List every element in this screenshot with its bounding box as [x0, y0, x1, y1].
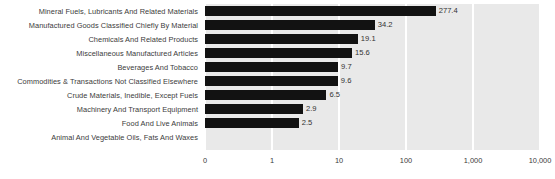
bar[interactable] — [205, 76, 338, 86]
bar-value-label: 34.2 — [378, 19, 393, 31]
bar[interactable] — [205, 20, 375, 30]
gridline — [472, 4, 474, 150]
x-tick-label: 100 — [400, 156, 412, 165]
bar-value-label: 277.4 — [439, 5, 458, 17]
bar-value-label: 2.9 — [306, 103, 317, 115]
bar[interactable] — [205, 104, 303, 114]
bar-value-label: 9.6 — [341, 75, 352, 87]
plot-area: 277.4 34.2 19.1 15.6 9.7 9.6 6.5 2.9 — [204, 4, 540, 150]
gridline — [405, 4, 407, 150]
x-tick-label: 10,000 — [529, 156, 552, 165]
category-label: Mineral Fuels, Lubricants And Related Ma… — [39, 5, 198, 19]
bar[interactable] — [205, 90, 326, 100]
bar[interactable] — [205, 48, 352, 58]
bar-value-label: 15.6 — [355, 47, 370, 59]
category-label: Commodities & Transactions Not Classifie… — [17, 75, 198, 89]
bar-value-label: 19.1 — [361, 33, 376, 45]
x-axis: 0 1 10 100 1,000 10,000 — [0, 152, 555, 174]
category-label: Beverages And Tobacco — [117, 61, 198, 75]
bar[interactable] — [205, 62, 338, 72]
category-label: Chemicals And Related Products — [88, 33, 198, 47]
bar-value-label: 6.5 — [329, 89, 340, 101]
bar-value-label: 9.7 — [341, 61, 352, 73]
x-tick-label: 0 — [203, 156, 207, 165]
bar-chart: Mineral Fuels, Lubricants And Related Ma… — [0, 0, 555, 179]
category-axis: Mineral Fuels, Lubricants And Related Ma… — [0, 5, 201, 149]
category-label: Food And Live Animals — [122, 117, 198, 131]
bar[interactable] — [205, 118, 299, 128]
category-label: Manufactured Goods Classified Chiefly By… — [29, 19, 198, 33]
bar[interactable] — [205, 6, 436, 16]
category-label: Miscellaneous Manufactured Articles — [76, 47, 198, 61]
category-label: Animal And Vegetable Oils, Fats And Waxe… — [51, 131, 198, 145]
x-tick-label: 1 — [270, 156, 274, 165]
category-label: Machinery And Transport Equipment — [77, 103, 198, 117]
gridline — [539, 4, 541, 150]
x-tick-label: 10 — [335, 156, 343, 165]
x-tick-label: 1,000 — [464, 156, 483, 165]
bar[interactable] — [205, 34, 358, 44]
category-label: Crude Materials, Inedible, Except Fuels — [67, 89, 198, 103]
bar-value-label: 2.5 — [302, 117, 313, 129]
